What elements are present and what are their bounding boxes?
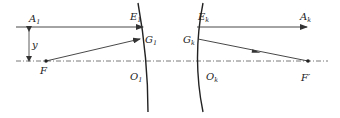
label-f: F <box>39 65 48 76</box>
label-a1: A1 <box>28 13 40 26</box>
arrow-gk-fprime <box>252 49 262 54</box>
label-ok: Ok <box>206 71 218 84</box>
label-y: y <box>31 39 38 50</box>
focus-point-f <box>44 59 48 63</box>
label-fprime: F′ <box>300 72 311 83</box>
label-ek: Ek <box>197 11 209 24</box>
optics-diagram: A1 y F E1 G1 O1 Ek Gk Ok Ak F′ <box>0 0 340 118</box>
label-g1: G1 <box>145 34 157 47</box>
label-o1: O1 <box>130 71 142 84</box>
focus-point-fprime <box>306 59 310 63</box>
label-ak: Ak <box>299 11 311 24</box>
label-gk: Gk <box>183 34 195 47</box>
ray-f-g1 <box>46 39 140 61</box>
